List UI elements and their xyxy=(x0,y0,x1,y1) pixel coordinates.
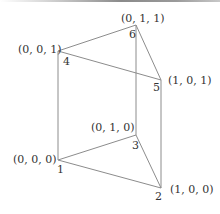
vertex-4-coord-label: (0, 0, 1) xyxy=(18,44,62,55)
edge-3-1 xyxy=(58,135,136,160)
vertex-6-number: 6 xyxy=(129,29,136,40)
vertex-2-number: 2 xyxy=(155,191,162,202)
vertex-6-coord-label: (0, 1, 1) xyxy=(121,13,165,24)
edge-6-4 xyxy=(58,25,136,51)
prism-diagram: (0, 0, 0) 1 (1, 0, 0) 2 (0, 1, 0) 3 (0, … xyxy=(0,0,220,214)
edge-2-3 xyxy=(136,135,161,188)
edge-4-5 xyxy=(58,51,161,80)
vertex-1-number: 1 xyxy=(57,164,64,175)
edge-5-6 xyxy=(136,25,161,80)
edge-1-2 xyxy=(58,160,161,188)
vertex-3-number: 3 xyxy=(132,140,139,151)
vertex-2-coord-label: (1, 0, 0) xyxy=(170,184,214,195)
vertex-4-number: 4 xyxy=(63,56,70,67)
prism-edges xyxy=(0,0,220,214)
vertex-5-number: 5 xyxy=(153,82,160,93)
vertex-3-coord-label: (0, 1, 0) xyxy=(91,122,135,133)
vertex-1-coord-label: (0, 0, 0) xyxy=(13,154,57,165)
vertex-5-coord-label: (1, 0, 1) xyxy=(168,75,212,86)
